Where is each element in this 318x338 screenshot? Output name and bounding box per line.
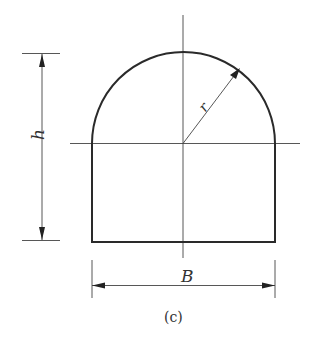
arrow-up-icon — [39, 54, 45, 67]
height-dimension: h — [22, 54, 60, 241]
section-diagram: r h B (c) — [0, 0, 318, 338]
section-outline — [92, 52, 275, 242]
radius-dimension: r — [183, 68, 240, 144]
radius-line — [183, 72, 237, 144]
arrow-right-icon — [262, 283, 275, 289]
height-label: h — [28, 129, 48, 140]
radius-arrowhead-icon — [230, 68, 240, 79]
figure-caption: (c) — [164, 309, 183, 325]
arrow-left-icon — [92, 283, 105, 289]
arrow-down-icon — [39, 227, 45, 240]
radius-label: r — [195, 99, 213, 115]
width-dimension: B — [92, 260, 275, 298]
width-label: B — [180, 266, 194, 286]
